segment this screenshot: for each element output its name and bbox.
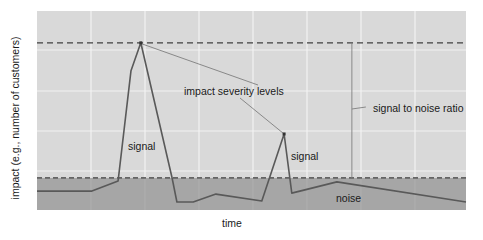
chart: impact (e.g., number of customers) time … bbox=[0, 0, 483, 240]
x-axis-label: time bbox=[222, 217, 242, 229]
peak-marker-2 bbox=[283, 132, 286, 135]
noise-label: noise bbox=[336, 192, 361, 204]
snr-label: signal to noise ratio bbox=[373, 102, 464, 114]
signal-label-1: signal bbox=[128, 140, 155, 152]
impact-severity-label: impact severity levels bbox=[184, 85, 284, 97]
y-axis-label: impact (e.g., number of customers) bbox=[9, 37, 21, 200]
signal-label-2: signal bbox=[291, 150, 318, 162]
noise-band bbox=[37, 178, 466, 210]
peak-marker-1 bbox=[139, 41, 142, 44]
